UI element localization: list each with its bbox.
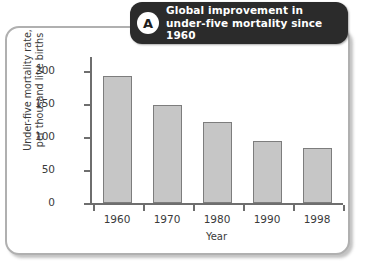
bar-1980 [203, 122, 232, 203]
x-label-1998: 1998 [293, 213, 341, 225]
chart-plot-area: Under-five mortality rate, per thousand … [7, 28, 348, 253]
x-tick-5 [343, 205, 345, 211]
y-tick-label-200: 200 [15, 64, 55, 76]
x-tick-3 [243, 205, 245, 211]
x-label-1990: 1990 [243, 213, 291, 225]
bar-1990 [253, 141, 282, 203]
y-tick-100 [84, 137, 91, 139]
y-tick-label-0: 0 [15, 196, 55, 208]
bar-1998 [303, 148, 332, 203]
y-tick-label-50: 50 [15, 163, 55, 175]
y-tick-150 [84, 104, 91, 106]
x-tick-2 [193, 205, 195, 211]
y-tick-label-100: 100 [15, 130, 55, 142]
y-tick-0 [84, 203, 91, 205]
x-label-1970: 1970 [143, 213, 191, 225]
figure-card: Under-five mortality rate, per thousand … [5, 26, 350, 255]
y-tick-label-150: 150 [15, 97, 55, 109]
x-tick-1 [143, 205, 145, 211]
x-axis-line [90, 203, 343, 205]
panel-title-text: Global improvement in under-five mortali… [166, 4, 340, 42]
y-tick-200 [84, 71, 91, 73]
x-axis-title: Year [90, 231, 343, 242]
panel-badge: A [137, 12, 159, 34]
bar-1960 [103, 76, 132, 203]
x-tick-4 [293, 205, 295, 211]
y-axis-line [90, 57, 92, 204]
y-tick-50 [84, 170, 91, 172]
x-label-1960: 1960 [93, 213, 141, 225]
x-label-1980: 1980 [193, 213, 241, 225]
bar-1970 [153, 105, 182, 203]
panel-title-banner: A Global improvement in under-five morta… [130, 2, 348, 44]
x-tick-0 [93, 205, 95, 211]
y-axis-title: Under-five mortality rate, per thousand … [22, 15, 46, 165]
